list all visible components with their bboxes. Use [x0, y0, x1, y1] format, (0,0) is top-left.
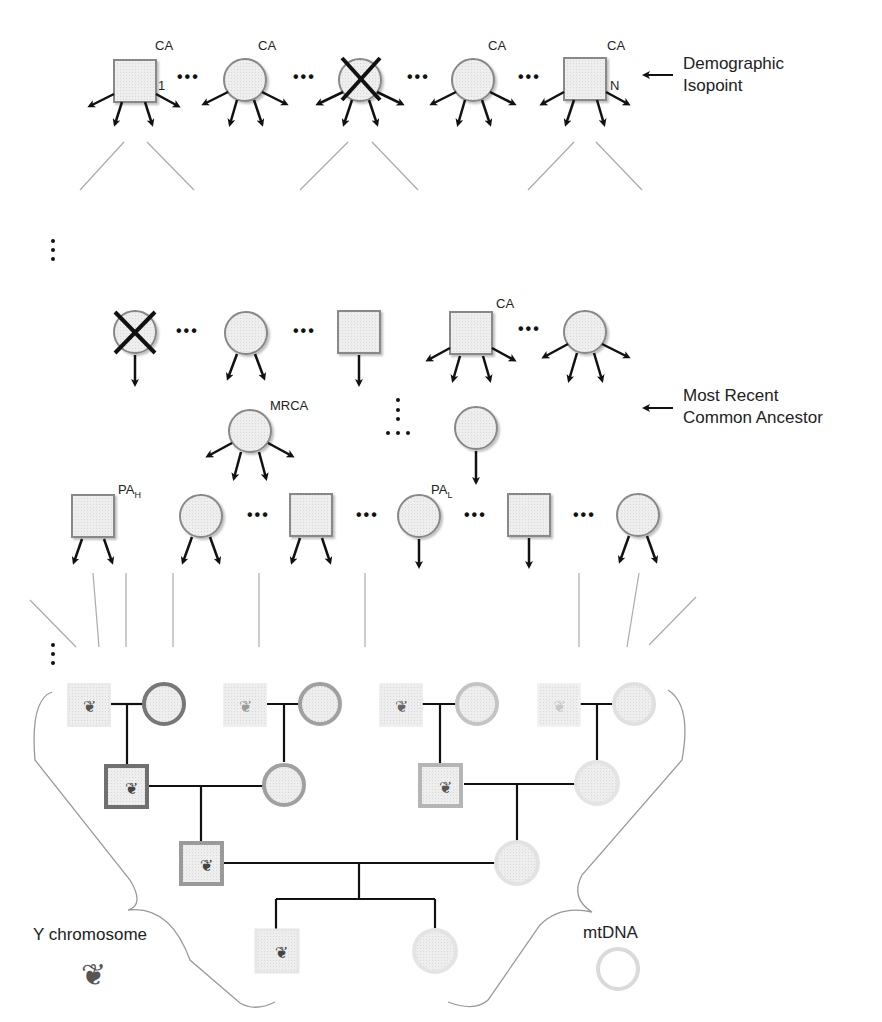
common-ancestor-label: Common Ancestor: [683, 408, 823, 427]
ellipsis: •••: [464, 506, 487, 523]
pedigree-connectors: [111, 704, 612, 929]
pedigree-male-g4: ❦: [256, 930, 298, 972]
pa-l-label: PAL: [431, 482, 452, 500]
top-row: CA 1 ••• CA •••: [90, 38, 785, 124]
node-circle: [225, 312, 267, 378]
pa-h-label: PAH: [118, 482, 141, 500]
node-square: [290, 494, 332, 562]
node-square-ca-1: CA 1: [90, 38, 178, 124]
node-circle: [544, 311, 628, 380]
pedigree-female-g1-b: [300, 684, 340, 724]
pedigree-female-g1-c: [457, 684, 497, 724]
y-chromosome-icon: ❦: [81, 958, 106, 991]
ca-label: CA: [488, 38, 506, 53]
ancestor-row: MRCA: [208, 398, 497, 482]
node-square-pa-h: PAH: [72, 482, 141, 562]
ca-label: CA: [496, 296, 514, 311]
node-circle-pa-l: PAL: [398, 482, 452, 566]
pedigree-male-g1-a: ❦: [68, 684, 110, 726]
y-chromosome-icon: ❦: [439, 779, 452, 796]
pedigree-male-g2-b: ❦: [420, 765, 461, 806]
y-chromosome-label: Y chromosome: [33, 925, 147, 944]
ellipsis: •••: [293, 322, 316, 339]
node-circle-ca-2: CA: [204, 38, 286, 124]
y-chromosome-icon: ❦: [395, 698, 408, 715]
ellipsis: •••: [176, 322, 199, 339]
mtdna-brace: [448, 690, 685, 1007]
genealogy-diagram: CA 1 ••• CA •••: [0, 0, 882, 1022]
pedigree-male-g3: ❦: [181, 843, 222, 884]
y-chromosome-icon: ❦: [83, 698, 96, 715]
y-chromosome-icon: ❦: [275, 944, 288, 961]
y-chromosome-icon: ❦: [553, 698, 566, 715]
isopoint-label: Isopoint: [683, 76, 743, 95]
ellipsis: •••: [293, 68, 316, 85]
ellipsis: •••: [518, 320, 541, 337]
ellipsis: •••: [573, 506, 596, 523]
pedigree-female-g4: [414, 930, 456, 972]
ca-label: CA: [258, 38, 276, 53]
lineage-guides-bottom: [30, 573, 696, 647]
node-square: [508, 494, 550, 566]
pedigree-male-g1-b: ❦: [224, 684, 266, 726]
mtdna-label: mtDNA: [583, 923, 638, 942]
lineage-guides-top: [80, 142, 642, 190]
pedigree-male-g2-a: ❦: [106, 766, 147, 807]
index-1-label: 1: [158, 78, 165, 93]
pedigree-male-g1-c: ❦: [380, 684, 422, 726]
ca-label: CA: [607, 38, 625, 53]
ellipsis: •••: [356, 506, 379, 523]
y-chromosome-legend: Y chromosome ❦: [33, 925, 147, 991]
node-circle: [455, 407, 497, 482]
ellipsis: •••: [177, 68, 200, 85]
index-n-label: N: [610, 78, 619, 93]
pedigree-female-g2-a: [264, 765, 304, 805]
mrca-label: MRCA: [270, 398, 309, 413]
pedigree-male-g1-d: ❦: [538, 684, 580, 726]
pedigree-female-g1-d: [614, 684, 654, 724]
node-circle-extinct: [318, 58, 402, 124]
ellipsis: •••: [407, 68, 430, 85]
node-circle-ca-3: CA: [432, 38, 514, 124]
node-circle-mrca: MRCA: [208, 398, 309, 478]
node-square: [338, 311, 380, 384]
pa-row: PAH ••• ••• PAL •••: [72, 482, 659, 566]
pedigree-female-g2-b: [576, 762, 618, 804]
ca-label: CA: [155, 38, 173, 53]
y-chromosome-icon: ❦: [239, 698, 252, 715]
y-chromosome-icon: ❦: [125, 780, 138, 797]
node-circle-extinct: [114, 311, 156, 384]
vertical-ellipsis-left-2: [51, 643, 55, 665]
pedigree-female-g1-a: [144, 684, 184, 724]
pedigree: ❦ ❦ ❦ ❦ ❦ ❦ ❦: [68, 684, 654, 972]
mtdna-icon: [598, 949, 638, 989]
demographic-isopoint-annotation: Demographic Isopoint: [645, 54, 785, 95]
mtdna-legend: mtDNA: [583, 923, 638, 989]
vertical-ellipsis-left-1: [51, 239, 55, 261]
mrca-annotation: Most Recent Common Ancestor: [645, 386, 823, 427]
demographic-label: Demographic: [683, 54, 785, 73]
ellipsis-corner: [386, 398, 410, 435]
node-circle: [180, 495, 222, 562]
node-square-ca: CA: [428, 296, 514, 380]
most-recent-label: Most Recent: [683, 386, 779, 405]
y-chromosome-icon: ❦: [200, 857, 213, 874]
pedigree-female-g3: [496, 842, 538, 884]
node-square-ca-n: CA N: [542, 38, 628, 124]
ellipsis: •••: [247, 506, 270, 523]
node-circle: [617, 494, 659, 561]
y-chromosome-brace: [34, 692, 275, 1007]
ellipsis: •••: [518, 68, 541, 85]
